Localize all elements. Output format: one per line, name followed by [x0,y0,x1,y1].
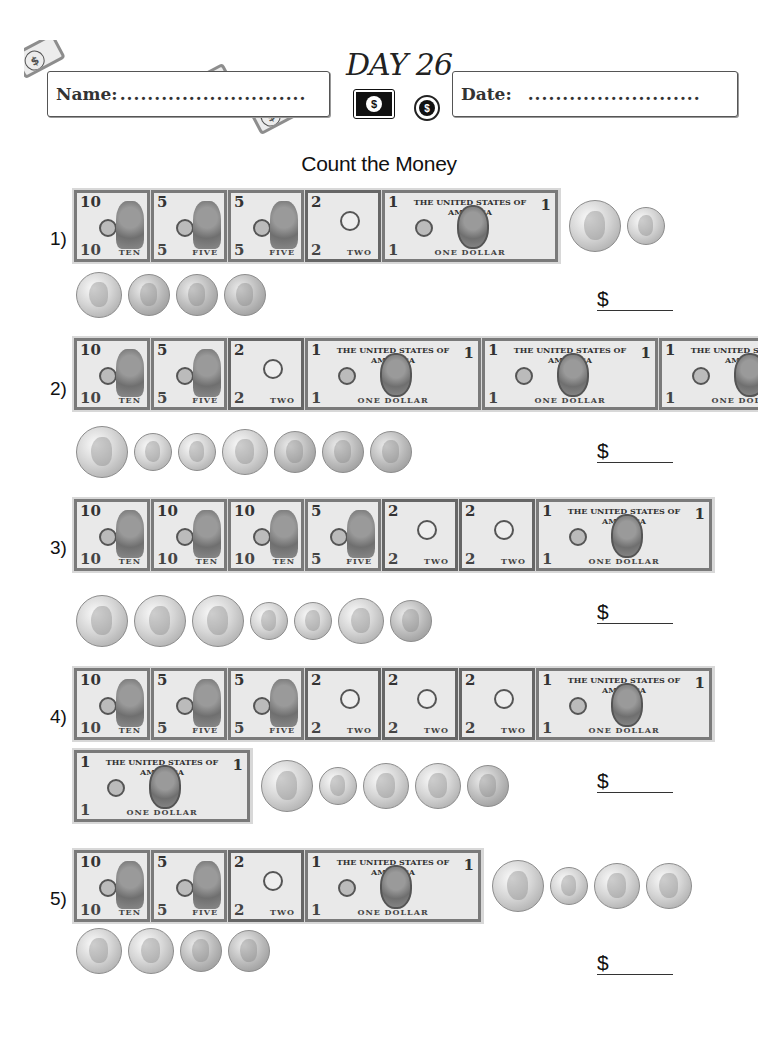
bill-portrait-icon [380,865,412,909]
name-label: Name: [56,84,118,104]
penny-coin-icon [128,274,170,316]
bill-seal-icon [569,697,587,715]
dollar-sign: $ [597,769,609,792]
bill-seal-icon [338,367,356,385]
bill-denomination: 5 [311,502,321,520]
name-dotted-line: ........................... [120,84,307,104]
bill-denomination: 10 [80,719,101,737]
bill-seal-icon [253,697,271,715]
bill-strip: 1010TEN55FIVE55FIVE22TWO1THE UNITED STAT… [72,188,561,264]
bill-seal-icon [253,528,271,546]
bill-10-dollar: 1010TEN [74,190,150,262]
bill-seal-icon [494,520,514,540]
answer-field[interactable]: $ [597,601,673,624]
bill-word: ONE DOLLAR [385,247,555,257]
bill-5-dollar: 55FIVE [228,668,304,740]
nickel-coin-icon [415,763,461,809]
answer-field[interactable]: $ [597,952,673,975]
bill-portrait-icon [347,510,375,558]
name-field[interactable]: Name: ........................... [47,71,330,117]
dollar-sign-icon: $ [366,96,382,112]
bill-portrait-icon [457,205,489,249]
date-label: Date: [461,84,512,104]
problem-3: 3)1010TEN1010TEN1010TEN55FIVE22TWO22TWO1… [0,497,758,647]
bill-denomination: 10 [80,901,101,919]
quarter-coin-icon [492,860,544,912]
bill-denomination: 5 [157,671,167,689]
problem-number: 4) [50,706,67,728]
bill-word: ONE DOLLAR [308,395,478,405]
nickel-coin-icon [76,272,122,318]
bill-word: FIVE [192,907,218,917]
money-row2: 1THE UNITED STATES OF AMERICA11ONE DOLLA… [72,748,515,824]
bill-10-dollar: 1010TEN [228,499,304,571]
bill-portrait-icon [116,861,144,909]
bill-2-dollar: 22TWO [382,499,458,571]
bill-portrait-icon [149,765,181,809]
bill-word: TWO [501,725,526,735]
bill-denomination: 1 [695,674,705,692]
bill-word: TWO [270,907,295,917]
bill-denomination: 2 [388,550,398,568]
bill-5-dollar: 55FIVE [151,668,227,740]
worksheet-header: DAY 26 Name: ...........................… [24,40,740,158]
penny-coin-icon [467,765,509,807]
problem-number: 1) [50,228,67,250]
nickel-coin-icon [594,863,640,909]
answer-field[interactable]: $ [597,288,673,311]
penny-coin-icon [228,930,270,972]
bill-denomination: 1 [311,341,321,359]
bill-denomination: 10 [234,502,255,520]
bill-word: ONE DOLLAR [662,395,758,405]
quarter-coin-icon [76,595,128,647]
money-row2 [76,426,418,478]
bill-word: TWO [347,725,372,735]
bill-2-dollar: 22TWO [459,499,535,571]
bill-denomination: 1 [388,193,398,211]
nickel-coin-icon [646,863,692,909]
money-row2 [76,272,272,318]
problem-number: 3) [50,537,67,559]
bill-word: FIVE [192,247,218,257]
bill-denomination: 1 [80,753,90,771]
bill-denomination: 2 [388,502,398,520]
bill-seal-icon [107,779,125,797]
bill-denomination: 1 [464,344,474,362]
bill-denomination: 10 [234,550,255,568]
bill-5-dollar: 55FIVE [305,499,381,571]
money-bag-icon: $ [414,95,440,121]
bill-portrait-icon [270,679,298,727]
bill-denomination: 2 [311,719,321,737]
bill-portrait-icon [611,683,643,727]
bill-denomination: 2 [311,193,321,211]
nickel-coin-icon [222,429,268,475]
bill-10-dollar: 1010TEN [74,668,150,740]
bill-strip: 1010TEN1010TEN1010TEN55FIVE22TWO22TWO1TH… [72,497,715,573]
quarter-coin-icon [192,595,244,647]
date-field[interactable]: Date: ......................... [452,71,738,117]
bill-portrait-icon [116,510,144,558]
bill-word: FIVE [269,725,295,735]
bill-1-dollar: 1THE UNITED STATES OF AMERICA11ONE DOLLA… [659,338,758,410]
nickel-coin-icon [363,763,409,809]
penny-coin-icon [224,274,266,316]
bill-seal-icon [415,219,433,237]
answer-field[interactable]: $ [597,770,673,793]
bill-1-dollar: 1THE UNITED STATES OF AMERICA11ONE DOLLA… [482,338,658,410]
bill-denomination: 1 [464,856,474,874]
bill-seal-icon [569,528,587,546]
answer-field[interactable]: $ [597,440,673,463]
dime-coin-icon [250,602,288,640]
bill-10-dollar: 1010TEN [74,850,150,922]
bill-denomination: 1 [541,196,551,214]
bill-seal-icon [176,697,194,715]
money-row1: 1010TEN55FIVE55FIVE22TWO1THE UNITED STAT… [72,188,671,264]
bill-denomination: 5 [234,671,244,689]
bill-denomination: 2 [311,671,321,689]
day-title: DAY 26 [342,48,456,82]
bill-2-dollar: 22TWO [228,850,304,922]
bill-1-dollar: 1THE UNITED STATES OF AMERICA11ONE DOLLA… [305,850,481,922]
bill-word: FIVE [346,556,372,566]
bill-seal-icon [99,367,117,385]
bill-denomination: 10 [80,389,101,407]
